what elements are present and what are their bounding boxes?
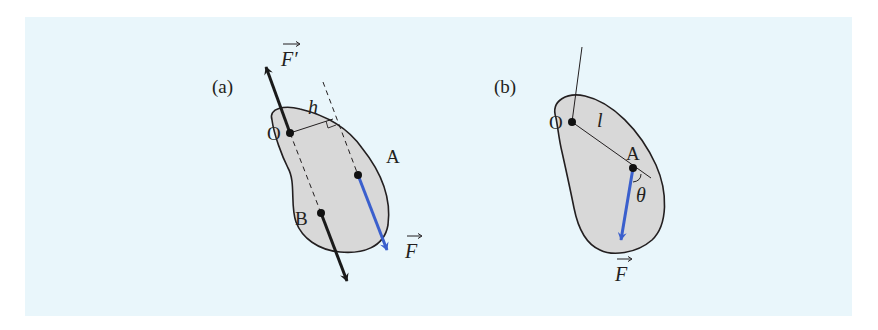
point-b-dot-a bbox=[317, 209, 325, 217]
torque-diagram: (a) O A B h F′ F (b) bbox=[0, 0, 878, 330]
point-o-dot-a bbox=[286, 129, 294, 137]
panel-b-label: (b) bbox=[494, 76, 516, 98]
svg-text:F: F bbox=[404, 240, 418, 262]
panel-a: (a) O A B h F′ F bbox=[212, 42, 422, 282]
point-a-dot-a bbox=[354, 171, 362, 179]
distance-l-label: l bbox=[597, 109, 603, 131]
point-a-label-b: A bbox=[626, 143, 640, 164]
point-a-label-a: A bbox=[386, 146, 400, 167]
force-f-label-a: F bbox=[404, 234, 422, 263]
svg-text:F′: F′ bbox=[280, 48, 298, 70]
panel-b: (b) O A l θ F bbox=[494, 47, 665, 285]
svg-text:F: F bbox=[614, 263, 628, 285]
point-o-label-b: O bbox=[549, 112, 563, 133]
point-a-dot-b bbox=[629, 164, 637, 172]
point-b-label-a: B bbox=[295, 208, 308, 229]
force-f-prime-label: F′ bbox=[280, 42, 300, 71]
angle-theta-label: θ bbox=[636, 184, 646, 206]
distance-h-label: h bbox=[308, 96, 318, 118]
panel-a-label: (a) bbox=[212, 76, 233, 98]
point-o-dot-b bbox=[568, 118, 576, 126]
force-f-label-b: F bbox=[614, 257, 632, 286]
point-o-label-a: O bbox=[267, 123, 281, 144]
